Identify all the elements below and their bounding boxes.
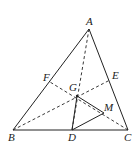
segment-AB [13, 29, 89, 130]
segment-AC [89, 29, 128, 130]
label-B: B [8, 131, 15, 143]
label-E: E [111, 69, 119, 81]
label-D: D [67, 131, 76, 143]
geometry-diagram: A B C D E F G M [0, 0, 133, 157]
median-BE [13, 80, 110, 130]
label-G: G [69, 81, 77, 93]
point-G [76, 95, 78, 97]
label-A: A [85, 15, 93, 27]
segment-DM [72, 113, 104, 130]
label-M: M [103, 101, 114, 113]
label-F: F [42, 71, 50, 83]
median-CF [50, 82, 128, 130]
label-C: C [124, 131, 132, 143]
segment-GM [77, 96, 104, 113]
